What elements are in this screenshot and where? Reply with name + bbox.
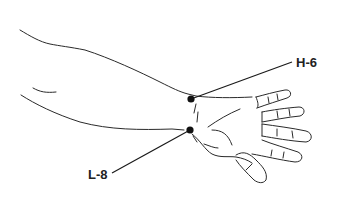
ring-finger-joint-2 — [289, 109, 290, 116]
ring-finger-outline — [262, 107, 304, 122]
h6-leader-line — [191, 62, 292, 99]
l8-point-marker — [186, 126, 193, 133]
ring-finger-joint-1 — [277, 111, 278, 118]
forearm-crease — [33, 88, 56, 92]
forearm-upper-outline — [20, 30, 252, 98]
hand-lower-outline — [192, 134, 252, 163]
forearm-lower-outline — [21, 95, 184, 130]
arm-hand-drawing — [0, 0, 337, 200]
thumb-outline — [236, 153, 266, 183]
little-finger-joint-2 — [277, 94, 278, 100]
index-finger-joint-2 — [283, 152, 284, 158]
h6-point-marker — [187, 95, 194, 102]
little-finger-joint-1 — [268, 97, 269, 103]
wrist-line-1 — [194, 104, 196, 113]
h6-label: H-6 — [296, 56, 317, 69]
palm-crease-3 — [204, 144, 218, 148]
l8-label: L-8 — [88, 168, 108, 181]
thumb-joint — [246, 164, 252, 170]
knuckle-edge — [256, 97, 262, 136]
palm-crease-2 — [212, 130, 232, 145]
middle-finger-joint-2 — [292, 131, 293, 138]
palm-crease-1 — [208, 109, 240, 127]
index-finger-outline — [252, 140, 302, 162]
little-finger-outline — [256, 90, 291, 108]
index-finger-joint-1 — [271, 150, 272, 156]
acupuncture-diagram: H-6 L-8 — [0, 0, 337, 200]
wrist-line-2 — [197, 112, 198, 122]
middle-finger-outline — [262, 124, 311, 142]
l8-leader-line — [112, 130, 190, 173]
